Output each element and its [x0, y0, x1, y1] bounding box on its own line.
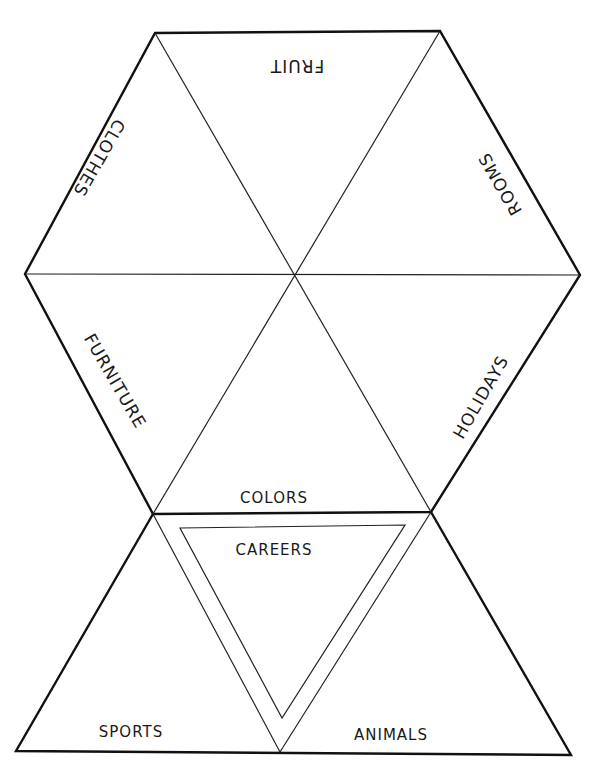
label-colors: COLORS	[240, 489, 308, 507]
label-furniture: FURNITURE	[80, 330, 150, 432]
label-careers: CAREERS	[235, 541, 312, 559]
label-fruit: FRUIT	[270, 56, 324, 76]
hexagon-outline	[25, 31, 580, 514]
diagonal-horizontal	[25, 274, 580, 275]
label-sports: SPORTS	[99, 723, 163, 741]
label-rooms: ROOMS	[474, 149, 526, 219]
label-animals: ANIMALS	[354, 726, 428, 744]
label-clothes: CLOTHES	[69, 116, 129, 200]
folding-diagram: FRUIT CLOTHES ROOMS FURNITURE HOLIDAYS C…	[0, 0, 601, 774]
